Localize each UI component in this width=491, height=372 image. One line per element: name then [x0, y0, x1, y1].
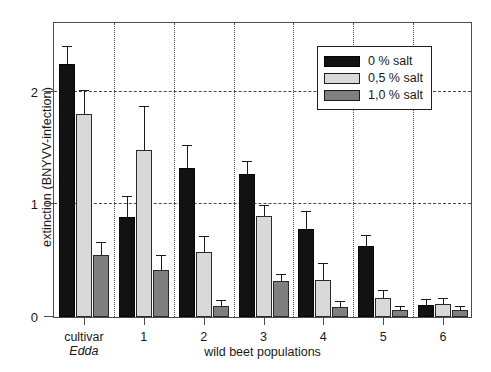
- error-bar-cap: [62, 46, 72, 47]
- bar-3-1: [256, 216, 272, 317]
- x-tick: [443, 317, 444, 325]
- chart-figure: extinction (BNYVV-infection) wild beet p…: [0, 0, 491, 372]
- error-bar-cap: [122, 196, 132, 197]
- legend: 0 % salt0,5 % salt1,0 % salt: [317, 46, 432, 110]
- legend-label: 0,5 % salt: [368, 71, 423, 85]
- bar-1-2: [153, 270, 169, 317]
- error-bar-cap: [455, 306, 465, 307]
- x-tick: [383, 317, 384, 325]
- bar-0-2: [93, 255, 109, 317]
- bar-1-0: [119, 217, 135, 317]
- legend-label: 0 % salt: [368, 54, 412, 68]
- gridline-vertical: [234, 23, 235, 317]
- error-bar-cap: [276, 274, 286, 275]
- x-tick-label-italic: Edda: [49, 344, 119, 358]
- error-bar-line: [144, 107, 145, 151]
- bar-4-2: [332, 307, 348, 317]
- x-tick: [204, 317, 205, 325]
- y-tick-label: 1: [12, 198, 38, 211]
- bar-4-0: [298, 229, 314, 317]
- error-bar-line: [383, 291, 384, 298]
- error-bar-cap: [361, 235, 371, 236]
- error-bar-line: [161, 256, 162, 270]
- error-bar-cap: [156, 255, 166, 256]
- bar-2-0: [179, 168, 195, 317]
- error-bar-line: [400, 307, 401, 310]
- y-axis-label: extinction (BNYVV-infection): [40, 17, 54, 317]
- legend-swatch: [324, 56, 360, 67]
- error-bar-line: [204, 237, 205, 252]
- plot-area: 012 cultivarEdda123456 0 % salt0,5 % sal…: [53, 22, 472, 318]
- x-tick: [323, 317, 324, 325]
- error-bar-line: [366, 236, 367, 246]
- bar-5-2: [392, 310, 408, 317]
- error-bar-cap: [421, 299, 431, 300]
- y-tick: [44, 316, 54, 317]
- error-bar-cap: [199, 236, 209, 237]
- error-bar-line: [127, 197, 128, 217]
- error-bar-cap: [395, 306, 405, 307]
- gridline-vertical: [174, 23, 175, 317]
- y-tick-label: 2: [12, 86, 38, 99]
- legend-item: 1,0 % salt: [324, 87, 423, 103]
- error-bar-line: [264, 206, 265, 216]
- error-bar-line: [340, 302, 341, 307]
- error-bar-cap: [139, 106, 149, 107]
- bar-3-2: [273, 281, 289, 317]
- y-tick-label: 0: [12, 311, 38, 324]
- legend-item: 0,5 % salt: [324, 70, 423, 86]
- x-tick: [84, 317, 85, 325]
- error-bar-cap: [79, 90, 89, 91]
- bar-0-0: [59, 64, 75, 317]
- error-bar-cap: [96, 242, 106, 243]
- y-tick: [44, 203, 54, 204]
- x-tick: [264, 317, 265, 325]
- error-bar-line: [67, 47, 68, 64]
- error-bar-line: [281, 275, 282, 281]
- y-tick: [44, 91, 54, 92]
- gridline-vertical: [293, 23, 294, 317]
- x-tick-label: 6: [408, 330, 478, 344]
- bar-6-0: [418, 305, 434, 317]
- bar-0-1: [76, 114, 92, 317]
- error-bar-cap: [318, 263, 328, 264]
- bar-6-1: [435, 304, 451, 318]
- bar-1-1: [136, 150, 152, 317]
- error-bar-line: [221, 301, 222, 306]
- legend-swatch: [324, 73, 360, 84]
- error-bar-cap: [182, 145, 192, 146]
- error-bar-cap: [301, 211, 311, 212]
- bar-5-0: [358, 246, 374, 317]
- error-bar-cap: [378, 290, 388, 291]
- legend-swatch: [324, 90, 360, 101]
- bar-6-2: [452, 310, 468, 317]
- error-bar-line: [84, 91, 85, 115]
- error-bar-line: [460, 307, 461, 310]
- error-bar-line: [101, 243, 102, 255]
- error-bar-line: [247, 162, 248, 174]
- bar-3-0: [239, 174, 255, 317]
- error-bar-cap: [216, 300, 226, 301]
- legend-item: 0 % salt: [324, 53, 423, 69]
- bar-5-1: [375, 298, 391, 317]
- bar-2-1: [196, 252, 212, 317]
- error-bar-line: [306, 212, 307, 229]
- gridline-vertical: [114, 23, 115, 317]
- x-tick: [144, 317, 145, 325]
- legend-label: 1,0 % salt: [368, 88, 423, 102]
- error-bar-cap: [259, 205, 269, 206]
- error-bar-cap: [438, 298, 448, 299]
- error-bar-cap: [242, 161, 252, 162]
- bar-2-2: [213, 306, 229, 317]
- error-bar-line: [187, 146, 188, 169]
- bar-4-1: [315, 280, 331, 317]
- error-bar-cap: [335, 301, 345, 302]
- error-bar-line: [323, 264, 324, 280]
- error-bar-line: [443, 299, 444, 304]
- error-bar-line: [426, 300, 427, 305]
